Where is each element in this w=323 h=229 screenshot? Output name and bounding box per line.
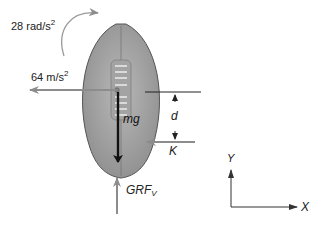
weight-label: mg — [123, 112, 140, 126]
angular-acceleration-value: 28 rad/s — [11, 20, 51, 32]
angular-acceleration-exponent: 2 — [51, 18, 55, 27]
moment-arm-label: d — [171, 109, 178, 123]
linear-acceleration-label: 64 m/s2 — [31, 69, 68, 83]
grf-main-text: GRF — [126, 183, 151, 197]
linear-acceleration-exponent: 2 — [64, 69, 68, 78]
diagram-canvas — [0, 0, 323, 229]
angular-acceleration-label: 28 rad/s2 — [11, 18, 55, 32]
kick-force-label: K — [169, 144, 177, 158]
linear-acceleration-value: 64 m/s — [31, 71, 64, 83]
grf-subscript: V — [151, 189, 156, 198]
y-axis-label: Y — [227, 152, 234, 164]
x-axis-label: X — [301, 200, 309, 214]
grf-vertical-label: GRFV — [126, 183, 157, 198]
